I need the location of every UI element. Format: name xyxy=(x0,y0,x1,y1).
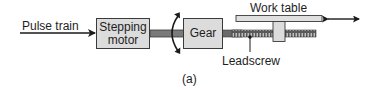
stepping-motor-box: Stepping motor xyxy=(96,18,150,49)
table-nut xyxy=(273,22,285,42)
stepping-motor-label-line2: motor xyxy=(99,34,146,47)
gear-box: Gear xyxy=(183,18,223,49)
leadscrew xyxy=(222,30,316,37)
motor-shaft xyxy=(150,30,184,37)
leadscrew-label: Leadscrew xyxy=(222,55,280,67)
figure-caption: (a) xyxy=(182,73,197,85)
pulse-train-label: Pulse train xyxy=(22,20,79,32)
stepping-motor-label-line1: Stepping xyxy=(99,21,146,34)
gear-label: Gear xyxy=(190,27,217,40)
work-table xyxy=(236,16,322,22)
work-table-label: Work table xyxy=(250,2,307,14)
leadscrew-pointer xyxy=(248,35,252,52)
